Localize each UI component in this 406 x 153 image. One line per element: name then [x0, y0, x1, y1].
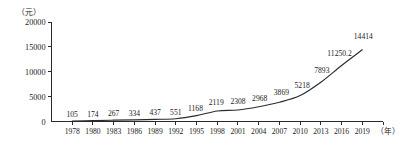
chart-plot-area: 05000100001500020000 1978198019831986198… — [0, 0, 406, 153]
data-point-label: 551 — [170, 108, 182, 117]
data-point-label: 2119 — [209, 98, 224, 107]
y-axis-ticks — [48, 22, 52, 97]
data-point-label: 267 — [108, 109, 120, 118]
y-axis-unit-label: （元） — [17, 8, 41, 17]
y-tick-label: 5000 — [29, 93, 45, 102]
x-tick-label: 1998 — [210, 127, 225, 136]
data-point-label: 437 — [149, 108, 161, 117]
data-point-label: 105 — [67, 110, 79, 119]
y-tick-label: 20000 — [25, 18, 45, 27]
x-tick-label: 1995 — [189, 127, 204, 136]
x-tick-label: 2010 — [293, 127, 308, 136]
data-point-label: 14414 — [354, 32, 373, 41]
x-axis-ticks — [72, 122, 383, 126]
x-tick-label: 1978 — [65, 127, 80, 136]
data-point-label: 11250.2 — [327, 49, 352, 58]
x-tick-label: 2001 — [230, 127, 245, 136]
data-point-label: 2308 — [230, 97, 245, 106]
data-point-label: 3869 — [274, 88, 289, 97]
x-axis-unit-label: （年） — [376, 126, 400, 136]
x-tick-label: 1983 — [106, 127, 121, 136]
x-tick-label: 2013 — [313, 127, 328, 136]
x-tick-label: 1980 — [85, 127, 100, 136]
y-tick-label: 0 — [41, 118, 45, 127]
line-chart: 05000100001500020000 1978198019831986198… — [0, 0, 406, 153]
x-tick-label: 2007 — [272, 127, 287, 136]
x-tick-label: 2016 — [334, 127, 349, 136]
data-point-label: 334 — [129, 109, 141, 118]
x-tick-label: 2004 — [251, 127, 266, 136]
y-axis-tick-labels: 05000100001500020000 — [25, 18, 45, 127]
x-tick-label: 1986 — [127, 127, 142, 136]
data-point-label: 2968 — [252, 94, 267, 103]
x-tick-label: 1989 — [148, 127, 163, 136]
y-tick-label: 10000 — [25, 68, 45, 77]
data-point-labels: 1051742673344375511168211923082968386952… — [67, 32, 373, 119]
data-point-label: 1168 — [188, 104, 203, 113]
x-axis-tick-labels: 1978198019831986198919921995199820012004… — [65, 127, 370, 136]
x-tick-label: 1992 — [168, 127, 183, 136]
y-tick-label: 15000 — [25, 43, 45, 52]
data-point-label: 174 — [87, 110, 99, 119]
data-point-label: 7893 — [314, 66, 329, 75]
data-point-label: 5218 — [295, 81, 310, 90]
x-tick-label: 2019 — [355, 127, 370, 136]
